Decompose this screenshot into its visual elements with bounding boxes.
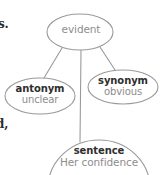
- connector-root-to-synonym: [100, 47, 115, 70]
- node-root: evident: [48, 24, 114, 35]
- node-antonym-value: unclear: [4, 95, 76, 106]
- connector-root-to-antonym: [44, 48, 62, 78]
- connector-root-to-sentence: [80, 50, 81, 142]
- node-sentence: sentence Her confidence: [47, 146, 151, 168]
- node-root-value: evident: [48, 24, 114, 35]
- node-antonym: antonym unclear: [4, 84, 76, 105]
- node-antonym-title: antonym: [4, 84, 76, 95]
- word-web-diagram: s. d, evident antonym unclear synonym ob…: [0, 0, 162, 175]
- node-synonym-value: obvious: [87, 87, 159, 98]
- node-sentence-title: sentence: [47, 146, 151, 157]
- node-synonym: synonym obvious: [87, 76, 159, 97]
- node-sentence-value: Her confidence: [47, 157, 151, 168]
- node-synonym-title: synonym: [87, 76, 159, 87]
